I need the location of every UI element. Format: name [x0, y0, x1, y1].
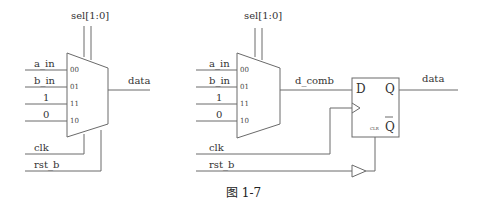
right-input-label-0: 0 [216, 109, 222, 120]
dff-q-pin: Q [385, 82, 395, 96]
right-mux-pin-01: 01 [240, 83, 249, 91]
left-output-label: data [128, 75, 150, 86]
left-input-label-0: 0 [43, 109, 49, 120]
right-circuit: sel[1:0] a_in 00 b_in 01 1 11 0 10 d_com… [196, 10, 458, 177]
dff-clr-pin: CLR [370, 126, 380, 131]
right-input-label-1: 1 [216, 92, 222, 103]
dff-qbar-pin: Q [385, 120, 395, 134]
left-input-label-1: 1 [43, 92, 49, 103]
left-reset-label: rst_b [34, 159, 59, 171]
right-select-label: sel[1:0] [244, 10, 282, 21]
circuit-diagram: sel[1:0] a_in 00 b_in 01 1 11 0 10 data … [0, 0, 480, 208]
figure-caption: 图 1-7 [226, 186, 261, 200]
left-mux-pin-11: 11 [70, 100, 79, 108]
left-mux-pin-01: 01 [70, 83, 79, 91]
left-input-label-a_in: a_in [34, 58, 55, 70]
right-mux-pin-11: 11 [240, 100, 249, 108]
right-output-label: data [422, 73, 444, 84]
right-mux-pin-00: 00 [240, 66, 249, 74]
reset-to-clr-wire [366, 137, 375, 171]
dff-d-pin: D [356, 82, 366, 96]
left-circuit: sel[1:0] a_in 00 b_in 01 1 11 0 10 data … [25, 10, 150, 171]
left-mux-pin-00: 00 [70, 66, 79, 74]
right-input-label-b_in: b_in [209, 75, 231, 87]
left-select-label: sel[1:0] [71, 10, 109, 21]
d-comb-label: d_comb [295, 75, 334, 87]
reset-buffer-icon [352, 165, 366, 177]
right-clock-label: clk [209, 142, 225, 153]
left-mux-pin-10: 10 [70, 117, 79, 125]
left-clock-label: clk [34, 142, 50, 153]
right-mux-pin-10: 10 [240, 117, 249, 125]
right-input-label-a_in: a_in [209, 58, 230, 70]
right-reset-label: rst_b [209, 159, 234, 171]
left-input-label-b_in: b_in [34, 75, 56, 87]
